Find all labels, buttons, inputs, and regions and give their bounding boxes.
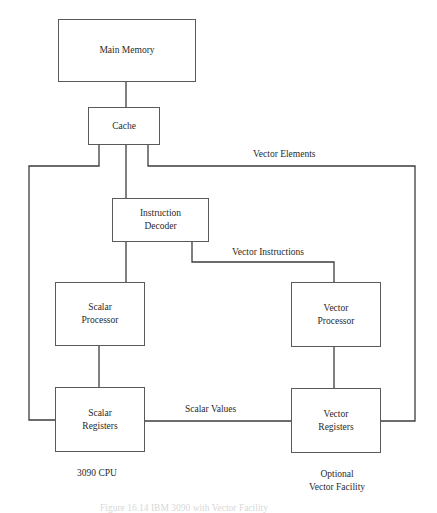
vector-facility-label-line1: Optional [305,468,369,481]
vector-registers-label-line2: Registers [318,421,353,434]
vector-processor-label-line2: Processor [318,315,355,328]
instruction-decoder-box: Instruction Decoder [112,198,209,242]
vector-elements-label: Vector Elements [253,148,316,161]
scalar-registers-box: Scalar Registers [55,387,145,452]
vector-registers-label-line1: Vector [324,408,349,421]
scalar-processor-box: Scalar Processor [55,282,145,346]
cache-box: Cache [88,107,160,145]
cpu-group-label: 3090 CPU [77,467,117,480]
cache-label: Cache [112,120,136,133]
vector-facility-label-line2: Vector Facility [305,481,369,494]
vector-processor-box: Vector Processor [291,282,381,347]
vector-registers-box: Vector Registers [291,388,381,453]
figure-caption: Figure 16.14 IBM 3090 with Vector Facili… [100,503,268,513]
scalar-values-label: Scalar Values [185,403,236,416]
instruction-decoder-label-line1: Instruction [140,207,181,220]
main-memory-label: Main Memory [99,44,154,57]
vector-processor-label-line1: Vector [324,302,349,315]
scalar-registers-label-line1: Scalar [88,407,112,420]
vector-instructions-label: Vector Instructions [232,246,304,259]
vector-facility-group-label: Optional Vector Facility [305,468,369,494]
scalar-registers-label-line2: Registers [82,420,117,433]
scalar-processor-label-line1: Scalar [88,301,112,314]
instruction-decoder-label-line2: Decoder [144,220,176,233]
scalar-processor-label-line2: Processor [82,314,119,327]
main-memory-box: Main Memory [58,19,196,82]
